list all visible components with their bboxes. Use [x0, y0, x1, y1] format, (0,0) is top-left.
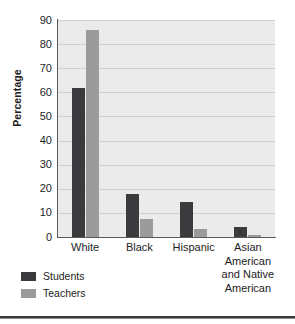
y-axis-tick-label: 60	[8, 87, 52, 98]
y-axis-tick-label: 70	[8, 63, 52, 74]
legend-item-students: Students	[21, 269, 86, 284]
y-axis-tick-label: 80	[8, 39, 52, 50]
x-axis-label-line: Asian	[212, 241, 284, 255]
legend-label: Students	[43, 271, 84, 282]
y-axis-tick-label: 90	[8, 15, 52, 26]
bar-group	[221, 20, 275, 237]
bar-teachers-1	[140, 219, 153, 237]
legend-swatch-icon	[21, 289, 36, 298]
y-axis-tick-label: 30	[8, 159, 52, 170]
bar-students-1	[126, 194, 139, 237]
y-axis-tick-label: 20	[8, 183, 52, 194]
y-axis-tick-label: 50	[8, 111, 52, 122]
y-axis-tick-label: 40	[8, 135, 52, 146]
bar-chart-figure: Percentage 9080706050403020100 WhiteBlac…	[0, 0, 295, 324]
bar-group	[167, 20, 221, 237]
y-axis-tick-label: 10	[8, 207, 52, 218]
x-axis-label-line: American	[212, 255, 284, 269]
legend-label: Teachers	[43, 288, 86, 299]
bottom-divider-shadow	[0, 318, 295, 319]
legend-swatch-icon	[21, 272, 36, 281]
y-axis-tick-labels: 9080706050403020100	[0, 20, 52, 237]
bar-group	[58, 20, 112, 237]
legend-item-teachers: Teachers	[21, 286, 86, 301]
bar-teachers-2	[194, 229, 207, 237]
x-axis-label-line: and Native	[212, 268, 284, 282]
x-axis-label: AsianAmericanand NativeAmerican	[212, 241, 284, 295]
y-axis-tick-label: 0	[8, 232, 52, 243]
bar-teachers-0	[86, 30, 99, 237]
plot-area	[58, 20, 275, 237]
bar-students-2	[180, 202, 193, 237]
x-axis-line	[57, 237, 276, 238]
bar-students-3	[234, 227, 247, 237]
bar-students-0	[72, 88, 85, 237]
bar-group	[112, 20, 166, 237]
x-axis-label-line: American	[212, 282, 284, 296]
bar-teachers-3	[248, 235, 261, 237]
legend: StudentsTeachers	[21, 269, 86, 303]
